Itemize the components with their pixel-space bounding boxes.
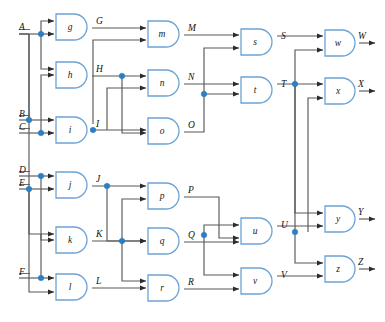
signal-label-O: O: [188, 120, 195, 130]
wire-Q-to-v-in1: [204, 242, 239, 275]
gate-x[interactable]: x: [325, 78, 355, 104]
gate-m-label: m: [159, 29, 166, 39]
gate-layer: g h i j k l m: [56, 14, 355, 301]
logic-diagram: g h i j k l m: [0, 0, 385, 322]
gate-u-label: u: [253, 226, 258, 236]
gate-y-label: y: [335, 214, 341, 224]
wire-A-to-h-in1: [41, 34, 54, 69]
gate-n-label: n: [160, 78, 165, 88]
gate-p-label: p: [159, 191, 165, 201]
gate-k[interactable]: k: [56, 227, 87, 253]
signal-label-G: G: [96, 16, 103, 26]
wire-C-to-h-in2: [41, 75, 54, 133]
junction-Q-branch: [201, 232, 207, 238]
signal-label-H: H: [95, 64, 104, 74]
gate-g[interactable]: g: [56, 14, 87, 40]
junction-E-branch: [26, 186, 32, 192]
signal-label-R: R: [187, 277, 194, 287]
gate-o[interactable]: o: [148, 118, 179, 144]
gate-t[interactable]: t: [241, 77, 272, 103]
input-label-D: D: [18, 165, 26, 175]
input-label-C: C: [19, 122, 26, 132]
wire-K-to-p-in2: [122, 199, 146, 241]
wire-U-to-z-in1: [295, 232, 323, 263]
output-label-W: W: [358, 31, 367, 41]
gate-x-label: x: [335, 86, 341, 96]
gate-t-label: t: [254, 85, 257, 95]
junction-K-branch: [119, 238, 125, 244]
gate-z-label: z: [335, 264, 340, 274]
wire-U-to-x-in2: [308, 98, 323, 232]
circuit-canvas: g h i j k l m: [0, 0, 385, 322]
gate-v[interactable]: v: [241, 268, 272, 294]
gate-l-label: l: [69, 282, 72, 292]
input-stub-underlines: [19, 30, 30, 274]
gate-p[interactable]: p: [148, 183, 179, 209]
junction-D-branch: [38, 173, 44, 179]
gate-o-label: o: [160, 126, 165, 136]
wire-D-to-k-in2: [41, 176, 54, 240]
signal-label-T: T: [281, 79, 287, 89]
gate-z[interactable]: z: [325, 256, 355, 282]
signal-label-M: M: [187, 23, 197, 33]
wire-T-to-y-in1: [295, 84, 323, 213]
junction-H-branch: [119, 73, 125, 79]
signal-label-J: J: [96, 174, 101, 184]
wire-J-to-q-in1: [107, 186, 146, 241]
gate-y[interactable]: y: [325, 206, 355, 232]
gate-n[interactable]: n: [148, 70, 179, 96]
gate-m[interactable]: m: [148, 21, 179, 47]
gate-w[interactable]: w: [325, 30, 355, 56]
input-label-B: B: [19, 109, 25, 119]
junction-C-branch: [38, 130, 44, 136]
signal-label-Q: Q: [188, 230, 195, 240]
gate-s[interactable]: s: [241, 29, 272, 55]
signal-label-S: S: [281, 31, 286, 41]
wire-U-to-w-in2: [295, 50, 323, 232]
output-label-Y: Y: [358, 207, 365, 217]
junction-U-branch: [292, 229, 298, 235]
junction-T-branch: [292, 81, 298, 87]
input-label-E: E: [18, 178, 25, 188]
signal-label-L: L: [95, 276, 101, 286]
wire-Q-to-u-in1b: [204, 225, 239, 242]
input-label-F: F: [18, 267, 25, 277]
wire-H-to-o-in1: [122, 76, 146, 133]
gate-r[interactable]: r: [148, 275, 179, 301]
signal-label-I: I: [95, 119, 100, 129]
junction-N-branch: [201, 91, 207, 97]
junction-J-branch: [104, 183, 110, 189]
gate-j[interactable]: j: [56, 172, 87, 198]
gate-s-label: s: [253, 37, 257, 47]
gate-q-label: q: [160, 236, 165, 246]
junction-B-branch: [26, 117, 32, 123]
junction-A-branch: [38, 31, 44, 37]
gate-l[interactable]: l: [56, 274, 87, 300]
gate-q[interactable]: q: [148, 228, 179, 254]
signal-label-K: K: [95, 229, 103, 239]
junction-I-branch: [90, 127, 96, 133]
wire-K-to-r-in1: [122, 241, 146, 281]
gate-g-label: g: [68, 22, 73, 32]
junction-F-branch: [38, 275, 44, 281]
signal-label-N: N: [187, 72, 195, 82]
gate-u[interactable]: u: [241, 218, 272, 244]
signal-label-P: P: [187, 185, 194, 195]
signal-label-U: U: [281, 220, 289, 230]
input-label-A: A: [18, 22, 25, 32]
wire-I-to-n-in2: [107, 88, 146, 130]
gate-i-label: i: [69, 125, 72, 135]
gate-i[interactable]: i: [56, 117, 87, 143]
gate-r-label: r: [160, 283, 164, 293]
output-label-X: X: [357, 79, 365, 89]
wire-I-to-m-in2: [93, 40, 146, 124]
gate-h[interactable]: h: [56, 62, 87, 88]
output-label-Z: Z: [358, 257, 364, 267]
gate-h-label: h: [68, 70, 73, 80]
gate-w-label: w: [335, 38, 342, 48]
signal-label-V: V: [281, 270, 288, 280]
